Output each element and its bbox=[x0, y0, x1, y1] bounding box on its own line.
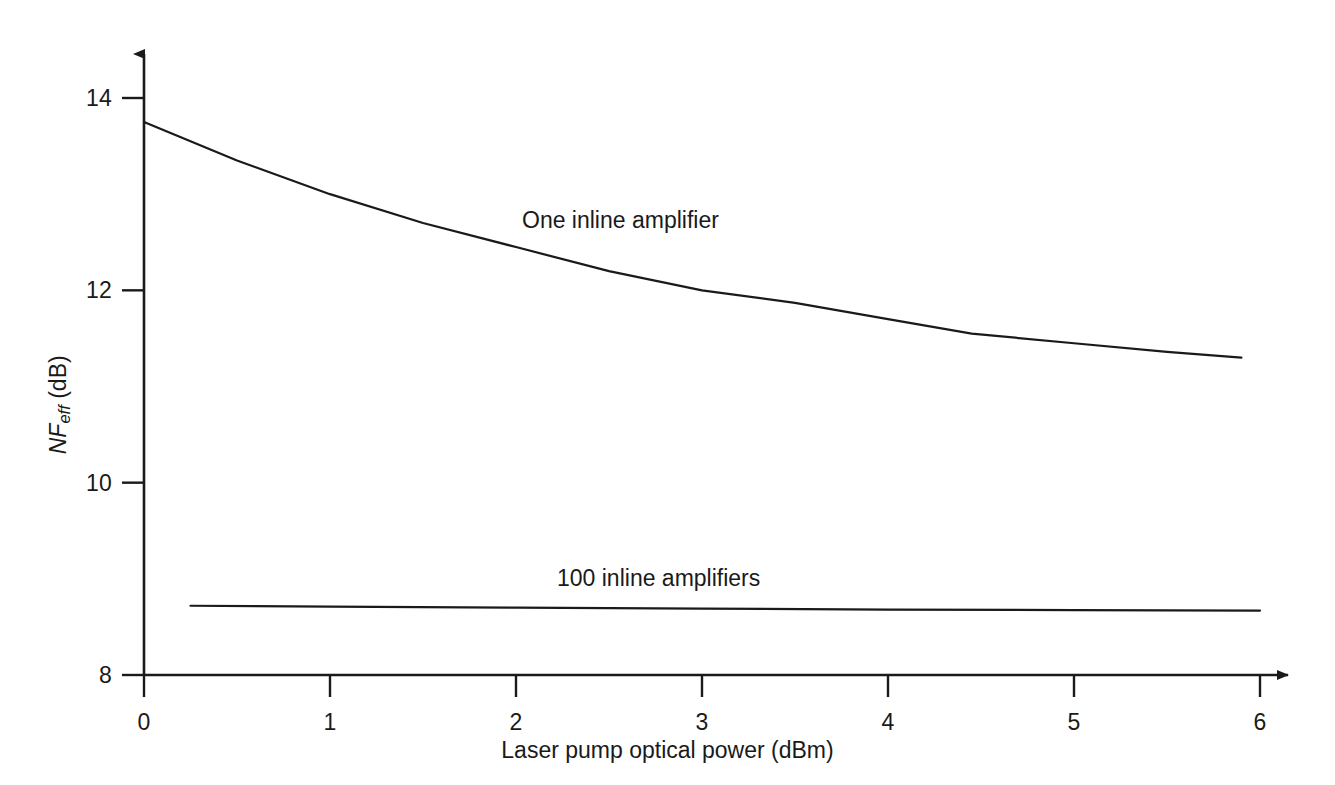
chart-figure: 8101214 0123456 NFeff (dB) Laser pump op… bbox=[0, 0, 1335, 785]
y-tick-label: 12 bbox=[60, 277, 112, 304]
y-axis-symbol: NFeff bbox=[45, 405, 71, 454]
x-tick-label: 5 bbox=[1068, 709, 1081, 736]
x-tick-label: 2 bbox=[510, 709, 523, 736]
y-axis-subscript: eff bbox=[55, 405, 74, 423]
series-line-0 bbox=[144, 122, 1241, 358]
y-tick-label: 14 bbox=[60, 85, 112, 112]
x-tick-label: 1 bbox=[324, 709, 337, 736]
x-tick-label: 0 bbox=[138, 709, 151, 736]
y-axis-unit: (dB) bbox=[45, 355, 71, 398]
chart-series-group bbox=[144, 122, 1260, 611]
x-axis-title: Laser pump optical power (dBm) bbox=[501, 737, 833, 764]
x-tick-label: 6 bbox=[1254, 709, 1267, 736]
y-tick-label: 8 bbox=[60, 662, 112, 689]
chart-plot-area bbox=[0, 0, 1335, 785]
series-line-1 bbox=[191, 606, 1261, 611]
y-axis-title-wrapper: NFeff (dB) bbox=[0, 330, 120, 490]
series-label-one-inline-amplifier: One inline amplifier bbox=[522, 207, 719, 234]
series-label-100-inline-amplifiers: 100 inline amplifiers bbox=[557, 565, 760, 592]
y-axis-title: NFeff (dB) bbox=[45, 315, 75, 495]
x-axis-tick-marks bbox=[144, 675, 1260, 697]
x-tick-label: 3 bbox=[696, 709, 709, 736]
y-axis-tick-marks bbox=[122, 98, 144, 675]
x-tick-label: 4 bbox=[882, 709, 895, 736]
